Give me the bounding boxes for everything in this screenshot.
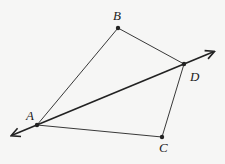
diagram-canvas: ABCD xyxy=(0,0,225,164)
point-a xyxy=(35,123,39,127)
segment-bd xyxy=(118,28,184,64)
point-d xyxy=(182,62,186,66)
label-b: B xyxy=(113,8,121,23)
label-a: A xyxy=(25,108,34,123)
quadrilateral-sides xyxy=(37,28,184,137)
label-c: C xyxy=(159,140,168,155)
segment-dc xyxy=(162,64,184,137)
point-b xyxy=(116,26,120,30)
segment-ab xyxy=(37,28,118,125)
points xyxy=(35,26,186,139)
segment-ca xyxy=(37,125,162,137)
geometry-diagram: ABCD xyxy=(0,0,225,164)
label-d: D xyxy=(189,69,200,84)
point-labels: ABCD xyxy=(25,8,200,155)
point-c xyxy=(160,135,164,139)
